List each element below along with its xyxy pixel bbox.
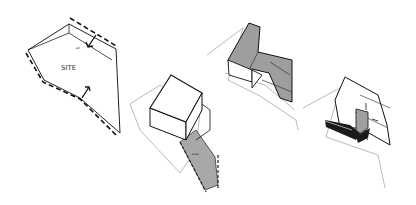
panel-folded-roof [207, 23, 298, 130]
panel-courtyard [303, 77, 390, 188]
site-small-label: ad. [76, 46, 81, 50]
arrow-icon [86, 35, 96, 47]
panel-site: SITE ad. [26, 18, 120, 137]
panel-block-volume: area [130, 75, 218, 192]
area-label: area [192, 152, 199, 156]
site-label: SITE [61, 64, 76, 72]
diagram-canvas: SITE ad. area [0, 0, 416, 205]
arrow-icon [82, 87, 90, 98]
